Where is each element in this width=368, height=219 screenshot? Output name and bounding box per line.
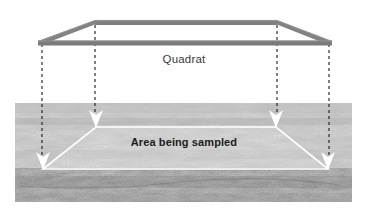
figure-canvas: Quadrat Area being sampled bbox=[0, 0, 368, 219]
quadrat-bar-left-highlight bbox=[39, 21, 95, 42]
diagram-scene bbox=[0, 0, 368, 219]
quadrat-frame bbox=[38, 20, 332, 46]
quadrat-bar-right-highlight bbox=[277, 21, 331, 42]
quadrat-bar-left bbox=[38, 20, 100, 44]
quadrat-bar-right bbox=[272, 20, 332, 44]
